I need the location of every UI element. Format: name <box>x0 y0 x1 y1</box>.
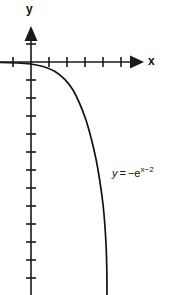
figure-canvas: x y y=−ex−2 <box>0 0 171 295</box>
equation-equals: = <box>120 167 126 179</box>
equation-lhs: y <box>112 167 118 179</box>
x-axis-label: x <box>148 55 155 67</box>
x-axis-arrow-icon <box>130 56 144 69</box>
y-axis-group <box>25 26 38 295</box>
x-axis-group <box>0 56 144 69</box>
equation-rhs-base: −e <box>128 167 141 179</box>
graph-plot <box>0 0 171 295</box>
y-axis-arrow-icon <box>25 26 38 41</box>
y-axis-label: y <box>26 3 33 15</box>
equation-exponent: x−2 <box>140 165 153 174</box>
exponential-curve <box>0 63 107 295</box>
equation-annotation: y=−ex−2 <box>112 168 154 179</box>
